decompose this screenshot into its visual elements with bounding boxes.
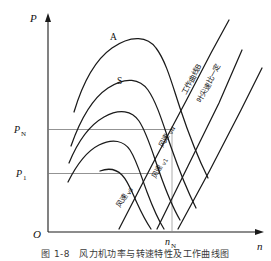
y-axis-label: P bbox=[29, 12, 37, 24]
y-axis-arrowhead bbox=[45, 13, 51, 22]
x-tick-nN-base: n bbox=[165, 236, 170, 247]
load-line-working-curve-b bbox=[119, 20, 229, 229]
y-tick-P1-base: P bbox=[15, 168, 22, 179]
x-axis-arrowhead bbox=[255, 229, 264, 235]
annotation-wind-speed-v1-subscript: v1 bbox=[161, 157, 170, 166]
annotation-wind-speed-v1: 风速 v1 bbox=[150, 155, 169, 180]
power-curve-1-highest bbox=[74, 39, 208, 178]
power-speed-characteristic-chart: P n O P N P 1 n N A S bbox=[0, 0, 271, 261]
origin-label: O bbox=[33, 228, 41, 240]
y-tick-PN: P N bbox=[13, 124, 26, 138]
annotation-wind-speed-vN: 风速 vN bbox=[157, 124, 177, 149]
y-tick-PN-base: P bbox=[13, 124, 20, 135]
figure-container: P n O P N P 1 n N A S bbox=[0, 0, 271, 261]
curve-marker-A: A bbox=[110, 32, 117, 42]
power-curve-4 bbox=[68, 141, 164, 229]
y-tick-P1-subscript: 1 bbox=[23, 174, 27, 182]
axis-labels-group: P n O bbox=[29, 12, 263, 252]
power-curves-group bbox=[68, 39, 208, 229]
y-tick-PN-subscript: N bbox=[21, 130, 26, 138]
curve-markers-group: A S bbox=[110, 32, 122, 86]
reference-lines-group bbox=[48, 130, 172, 233]
annotation-wind-speed-vN-subscript: vN bbox=[168, 126, 177, 135]
y-tick-P1: P 1 bbox=[15, 168, 27, 182]
curve-marker-S: S bbox=[117, 76, 122, 86]
figure-caption: 图 1-8 风力机功率与转速特性及工作曲线图 bbox=[0, 247, 271, 261]
